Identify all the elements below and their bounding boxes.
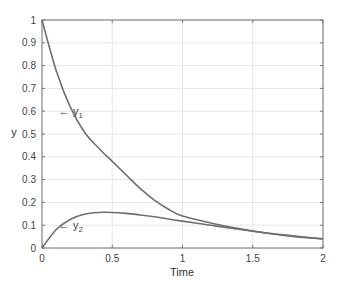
y-tick-label: 0.2: [22, 197, 36, 208]
x-tick-label: 1: [180, 253, 186, 264]
y-tick-label: 0.4: [22, 151, 36, 162]
y-tick-label: 0.3: [22, 174, 36, 185]
line-chart: 00.511.5200.10.20.30.40.50.60.70.80.91 ←…: [0, 0, 345, 291]
annotation-y2: ← y2: [59, 219, 84, 234]
y-axis-label: y: [11, 126, 17, 138]
x-tick-label: 0.5: [105, 253, 119, 264]
x-tick-label: 2: [320, 253, 326, 264]
y-tick-label: 0.8: [22, 60, 36, 71]
y-tick-label: 0.5: [22, 129, 36, 140]
y-tick-label: 0.7: [22, 83, 36, 94]
y-tick-label: 0: [30, 243, 36, 254]
y-tick-label: 0.1: [22, 220, 36, 231]
y-tick-label: 0.6: [22, 106, 36, 117]
y-tick-label: 1: [30, 15, 36, 26]
x-tick-label: 0: [39, 253, 45, 264]
x-axis-label: Time: [170, 266, 194, 278]
y-tick-label: 0.9: [22, 37, 36, 48]
x-tick-label: 1.5: [246, 253, 260, 264]
annotation-y1: ← y1: [59, 105, 84, 120]
